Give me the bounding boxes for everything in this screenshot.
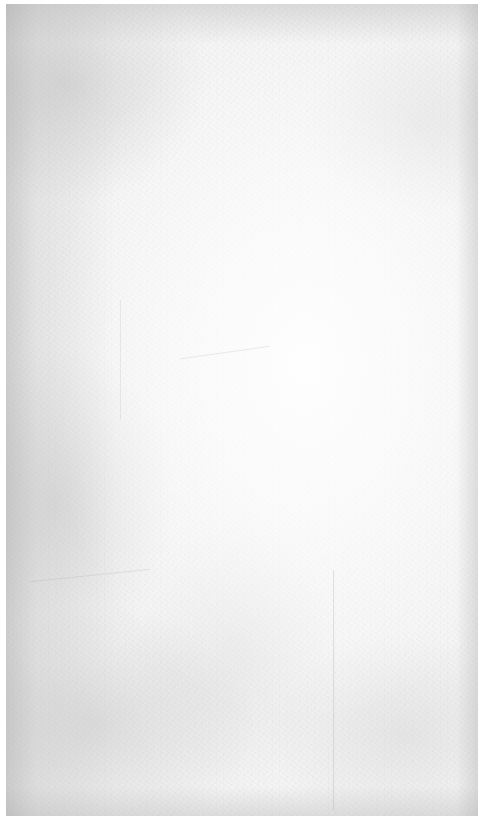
paper-texture-background: [6, 4, 478, 816]
texture-scratch: [120, 300, 121, 420]
texture-scratch: [333, 570, 334, 810]
page-frame: [0, 0, 483, 820]
